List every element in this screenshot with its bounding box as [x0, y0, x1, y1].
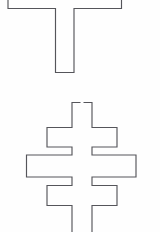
line-drawing-svg	[0, 0, 160, 232]
paper-background	[0, 0, 160, 232]
drawing-canvas: Two outlined stroke figures Black-and-wh…	[0, 0, 160, 232]
